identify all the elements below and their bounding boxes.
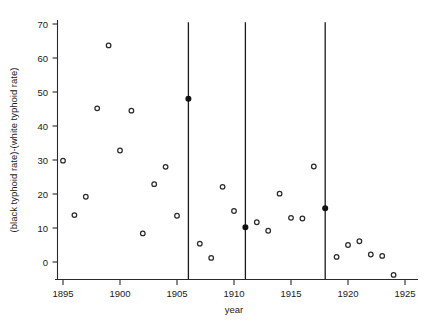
data-point xyxy=(266,228,271,233)
data-point xyxy=(141,231,146,236)
data-point xyxy=(175,213,180,218)
x-tick-label: 1915 xyxy=(280,288,301,299)
scatter-plot-figure: 010203040506070 189519001905191019151920… xyxy=(0,0,431,325)
y-tick-label: 40 xyxy=(37,121,48,132)
data-point xyxy=(61,158,66,163)
data-point xyxy=(186,96,191,101)
data-point xyxy=(346,243,351,248)
data-point xyxy=(198,241,203,246)
y-tick-label: 50 xyxy=(37,87,48,98)
data-point xyxy=(129,108,134,113)
data-point xyxy=(106,43,111,48)
y-tick-label: 0 xyxy=(43,257,48,268)
x-tick-label: 1895 xyxy=(52,288,73,299)
data-point xyxy=(391,273,396,278)
data-point xyxy=(323,206,328,211)
data-point xyxy=(369,252,374,257)
data-point xyxy=(95,106,100,111)
y-tick-label: 20 xyxy=(37,189,48,200)
y-tick-label: 10 xyxy=(37,223,48,234)
data-point xyxy=(72,213,77,218)
x-axis-ticks: 1895190019051910191519201925 xyxy=(52,280,415,300)
data-point xyxy=(243,225,248,230)
data-point-group xyxy=(61,43,396,277)
x-axis-title: year xyxy=(225,304,243,315)
data-point xyxy=(334,255,339,260)
plot-canvas: 010203040506070 189519001905191019151920… xyxy=(0,0,431,325)
y-tick-label: 60 xyxy=(37,53,48,64)
x-tick-label: 1900 xyxy=(109,288,130,299)
x-tick-label: 1905 xyxy=(166,288,187,299)
data-point xyxy=(232,209,237,214)
data-point xyxy=(84,194,89,199)
y-tick-label: 70 xyxy=(37,19,48,30)
data-point xyxy=(277,191,282,196)
x-tick-label: 1925 xyxy=(394,288,415,299)
y-axis-ticks: 010203040506070 xyxy=(37,19,57,268)
data-point xyxy=(152,182,157,187)
x-tick-label: 1920 xyxy=(337,288,358,299)
x-tick-label: 1910 xyxy=(223,288,244,299)
data-point xyxy=(289,216,294,221)
vertical-reference-lines xyxy=(188,22,325,279)
data-point xyxy=(300,216,305,221)
y-axis-title: (black typhoid rate)-(white typhoid rate… xyxy=(8,68,19,233)
data-point xyxy=(254,220,259,225)
data-point xyxy=(209,256,214,261)
data-point xyxy=(220,185,225,190)
y-tick-label: 30 xyxy=(37,155,48,166)
data-point xyxy=(163,165,168,170)
data-point xyxy=(357,239,362,244)
data-point xyxy=(380,254,385,259)
data-point xyxy=(118,148,123,153)
data-point xyxy=(312,164,317,169)
